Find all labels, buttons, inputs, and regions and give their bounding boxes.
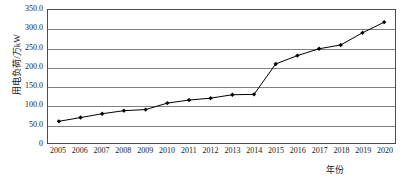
data-point-marker	[122, 109, 126, 113]
data-point-marker	[165, 101, 169, 105]
data-point-marker	[187, 98, 191, 102]
data-point-marker	[143, 107, 147, 111]
x-tick-label: 2012	[203, 147, 219, 155]
x-tick-label: 2018	[333, 147, 349, 155]
y-tick-label: 300.0	[25, 24, 43, 32]
x-tick-label: 2016	[290, 147, 306, 155]
y-tick-label: 350.0	[25, 5, 43, 13]
data-point-marker	[317, 47, 321, 51]
x-tick-label: 2010	[159, 147, 175, 155]
y-tick-label: 50.0	[29, 121, 43, 129]
data-point-marker	[295, 53, 299, 57]
y-tick-label: 0	[39, 140, 43, 148]
data-point-marker	[360, 31, 364, 35]
x-tick-label: 2019	[355, 147, 371, 155]
y-tick-label: 200.0	[25, 63, 43, 71]
x-tick-label: 2006	[72, 147, 88, 155]
x-tick-label: 2005	[50, 147, 66, 155]
plot-area	[47, 9, 396, 144]
x-tick-label: 2009	[137, 147, 153, 155]
x-tick-label: 2015	[268, 147, 284, 155]
x-axis-title: 年份	[326, 163, 344, 176]
x-tick-label: 2014	[246, 147, 262, 155]
x-tick-label: 2013	[224, 147, 240, 155]
data-point-marker	[208, 96, 212, 100]
data-point-marker	[382, 20, 386, 24]
data-point-marker	[78, 115, 82, 119]
data-point-marker	[100, 112, 104, 116]
x-tick-label: 2008	[115, 147, 131, 155]
y-tick-label: 250.0	[25, 44, 43, 52]
y-axis-tick-labels: 050.0100.0150.0200.0250.0300.0350.0	[12, 9, 45, 144]
line-chart: 用电负荷/万kW 050.0100.0150.0200.0250.0300.03…	[0, 0, 408, 181]
data-point-marker	[230, 93, 234, 97]
data-series-line	[48, 10, 395, 143]
x-tick-label: 2011	[181, 147, 197, 155]
x-tick-label: 2007	[94, 147, 110, 155]
y-tick-label: 150.0	[25, 82, 43, 90]
x-axis-tick-labels: 2005200620072008200920102011201220132014…	[47, 147, 396, 161]
y-tick-label: 100.0	[25, 101, 43, 109]
x-tick-label: 2017	[312, 147, 328, 155]
data-point-marker	[339, 43, 343, 47]
data-point-marker	[57, 119, 61, 123]
x-tick-label: 2020	[377, 147, 393, 155]
